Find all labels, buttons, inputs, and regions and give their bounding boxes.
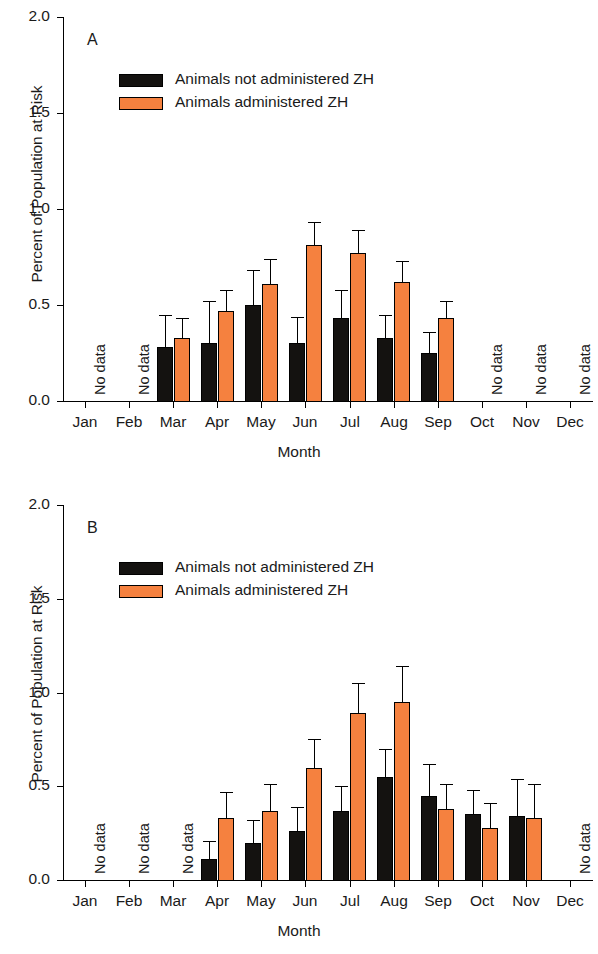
chart-panel-b: Percent of Population at Risk0.00.51.01.… xyxy=(0,477,598,954)
x-axis-title: Month xyxy=(0,922,598,940)
x-axis-tick-label-oct: Oct xyxy=(460,413,504,431)
bar-sep-not-administered xyxy=(421,353,437,402)
error-bar-cap-may-not-administered xyxy=(247,270,260,271)
x-axis-tick xyxy=(394,402,395,408)
bar-oct-not-administered xyxy=(465,814,481,881)
y-axis-tick-label: 1.0 xyxy=(6,199,50,217)
error-bar-cap-oct-not-administered xyxy=(467,790,480,791)
y-axis-tick-label: 1.5 xyxy=(6,103,50,121)
error-bar-cap-sep-not-administered xyxy=(423,332,436,333)
error-bar-cap-aug-not-administered xyxy=(379,315,392,316)
x-axis-tick xyxy=(305,402,306,408)
x-axis-tick xyxy=(350,881,351,887)
x-axis-tick-label-oct: Oct xyxy=(460,892,504,910)
x-axis-tick xyxy=(570,881,571,887)
error-bar-oct-not-administered xyxy=(473,790,474,814)
error-bar-cap-may-administered xyxy=(264,259,277,260)
x-axis-tick xyxy=(129,881,130,887)
bar-nov-administered xyxy=(526,818,542,881)
x-axis-tick-label-may: May xyxy=(239,413,283,431)
y-axis-tick-label: 1.5 xyxy=(6,589,50,607)
x-axis-tick-label-jun: Jun xyxy=(283,892,327,910)
x-axis-tick-label-sep: Sep xyxy=(416,892,460,910)
x-axis-tick-label-jul: Jul xyxy=(328,413,372,431)
y-axis-tick-label: 1.0 xyxy=(6,683,50,701)
error-bar-may-administered xyxy=(270,259,271,284)
x-axis-tick-label-feb: Feb xyxy=(107,413,151,431)
x-axis-tick xyxy=(173,402,174,408)
x-axis-tick xyxy=(394,881,395,887)
bar-aug-administered xyxy=(394,282,410,402)
x-axis-tick xyxy=(570,402,571,408)
x-axis-tick xyxy=(305,881,306,887)
y-axis-tick xyxy=(57,786,63,787)
error-bar-may-not-administered xyxy=(253,270,254,305)
error-bar-nov-administered xyxy=(534,784,535,818)
error-bar-cap-nov-administered xyxy=(528,784,541,785)
y-axis-tick-label: 0.0 xyxy=(6,391,50,409)
x-axis-tick-label-apr: Apr xyxy=(195,892,239,910)
x-axis-tick xyxy=(217,402,218,408)
error-bar-jul-not-administered xyxy=(341,290,342,318)
bar-sep-not-administered xyxy=(421,796,437,881)
error-bar-aug-administered xyxy=(402,666,403,702)
x-axis-tick xyxy=(526,881,527,887)
bar-jun-not-administered xyxy=(289,831,305,881)
x-axis-tick xyxy=(350,402,351,408)
error-bar-jul-administered xyxy=(358,230,359,253)
error-bar-cap-aug-not-administered xyxy=(379,749,392,750)
x-axis-tick xyxy=(261,402,262,408)
error-bar-cap-sep-administered xyxy=(440,301,453,302)
error-bar-apr-not-administered xyxy=(209,301,210,343)
x-axis-tick xyxy=(129,402,130,408)
x-axis-tick xyxy=(438,881,439,887)
y-axis-tick xyxy=(57,113,63,114)
y-axis-line xyxy=(63,505,64,881)
error-bar-cap-jul-administered xyxy=(352,683,365,684)
x-axis-tick-label-nov: Nov xyxy=(504,892,548,910)
x-axis-tick-label-aug: Aug xyxy=(372,892,416,910)
bar-mar-administered xyxy=(174,338,190,402)
error-bar-cap-jun-not-administered xyxy=(291,317,304,318)
panel-a-inner: Percent of Population at Risk0.00.51.01.… xyxy=(0,0,598,477)
x-axis-tick-label-aug: Aug xyxy=(372,413,416,431)
x-axis-tick xyxy=(217,881,218,887)
bar-aug-not-administered xyxy=(377,777,393,881)
bar-oct-administered xyxy=(482,828,498,881)
bar-apr-administered xyxy=(218,311,234,402)
error-bar-sep-administered xyxy=(446,301,447,318)
figure-bar-charts-percent-population-at-risk: Percent of Population at Risk0.00.51.01.… xyxy=(0,0,598,954)
x-axis-tick-label-sep: Sep xyxy=(416,413,460,431)
error-bar-jun-administered xyxy=(314,222,315,245)
no-data-label-dec: No data xyxy=(577,344,593,395)
bar-apr-not-administered xyxy=(201,343,217,402)
bar-may-not-administered xyxy=(245,305,261,402)
bar-jun-administered xyxy=(306,768,322,881)
x-axis-tick-label-jan: Jan xyxy=(63,892,107,910)
panel-letter-a: A xyxy=(87,31,98,49)
x-axis-title: Month xyxy=(0,443,598,461)
x-axis-tick xyxy=(261,881,262,887)
y-axis-tick-label: 2.0 xyxy=(6,7,50,25)
no-data-label-nov: No data xyxy=(533,344,549,395)
legend-label-not-administered: Animals not administered ZH xyxy=(175,70,374,88)
x-axis-tick xyxy=(482,881,483,887)
no-data-label-mar: No data xyxy=(180,823,196,874)
y-axis-tick-label: 0.5 xyxy=(6,776,50,794)
error-bar-cap-jun-not-administered xyxy=(291,807,304,808)
error-bar-cap-jul-administered xyxy=(352,230,365,231)
no-data-label-jan: No data xyxy=(92,344,108,395)
error-bar-may-not-administered xyxy=(253,820,254,843)
error-bar-cap-jun-administered xyxy=(308,739,321,740)
error-bar-cap-mar-administered xyxy=(176,318,189,319)
error-bar-aug-not-administered xyxy=(385,749,386,777)
error-bar-jul-not-administered xyxy=(341,786,342,811)
legend-label-not-administered: Animals not administered ZH xyxy=(175,558,374,576)
error-bar-cap-apr-administered xyxy=(220,290,233,291)
no-data-label-oct: No data xyxy=(489,344,505,395)
error-bar-nov-not-administered xyxy=(517,779,518,816)
bar-sep-administered xyxy=(438,809,454,881)
error-bar-apr-administered xyxy=(226,290,227,311)
error-bar-cap-may-administered xyxy=(264,784,277,785)
y-axis-title: Percent of Population at Risk xyxy=(28,54,46,314)
